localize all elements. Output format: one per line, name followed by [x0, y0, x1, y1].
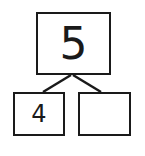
connector-right [73, 75, 101, 92]
part-left-value: 4 [31, 100, 46, 128]
part-box-right[interactable] [78, 92, 131, 136]
part-box-left: 4 [13, 92, 65, 136]
connector-left [43, 75, 71, 92]
whole-value: 5 [60, 18, 88, 69]
whole-box: 5 [36, 12, 111, 75]
